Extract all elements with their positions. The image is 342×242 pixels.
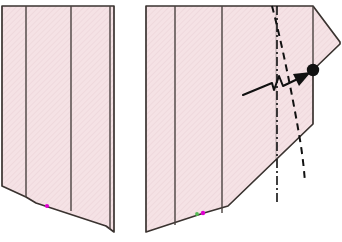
- right-vertex-marker-green: [195, 212, 199, 216]
- right-vertex-marker-magenta: [201, 211, 205, 215]
- diagram-canvas: [0, 0, 342, 242]
- technical-diagram-svg: [0, 0, 342, 242]
- left-vertex-marker-magenta: [45, 204, 49, 208]
- node-marker-dot: [307, 64, 319, 76]
